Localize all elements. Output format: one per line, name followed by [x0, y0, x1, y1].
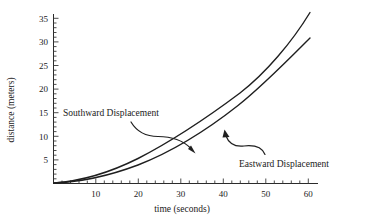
y-axis-title: distance (meters)	[6, 77, 17, 142]
y-tick-label: 15	[39, 108, 49, 118]
y-tick-label: 30	[39, 37, 49, 47]
y-tick-label: 10	[39, 132, 49, 142]
annotation-eastward-label: Eastward Displacement	[239, 159, 329, 169]
y-tick-label: 35	[39, 14, 49, 24]
x-tick-label: 20	[134, 189, 144, 199]
y-tick-label: 5	[44, 155, 49, 165]
annotation-southward-label: Southward Displacement	[63, 108, 159, 118]
x-tick-label: 60	[304, 189, 314, 199]
x-tick-label: 30	[176, 189, 186, 199]
x-tick-label: 40	[219, 189, 229, 199]
displacement-chart: 5 10 15 20 25 30 35 10 20 30 40 50 60 ti…	[0, 0, 368, 224]
y-tick-label: 25	[39, 61, 49, 71]
y-tick-label: 20	[39, 84, 49, 94]
x-axis-title: time (seconds)	[154, 204, 210, 215]
x-tick-label: 50	[261, 189, 271, 199]
x-tick-label: 10	[91, 189, 101, 199]
